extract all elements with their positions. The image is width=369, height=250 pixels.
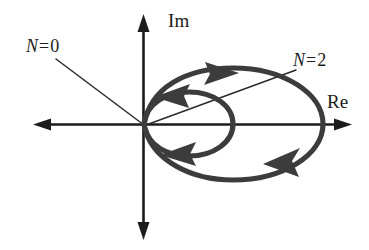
real-axis-arrow-left	[33, 119, 51, 131]
n2-symbol: N	[293, 50, 305, 70]
n2-value: 2	[317, 50, 326, 70]
n0-value: 0	[50, 36, 59, 56]
imaginary-axis-arrow-down	[138, 222, 150, 240]
imaginary-axis-label: Im	[168, 11, 190, 30]
axes-group	[33, 14, 352, 240]
real-axis-arrow-right	[334, 119, 352, 131]
real-axis	[33, 119, 352, 131]
encirclement-count-label-n0: N=0	[26, 37, 59, 55]
locus-group	[144, 62, 323, 180]
n2-equals: =	[306, 50, 316, 70]
encirclement-count-label-n2: N=2	[293, 51, 326, 69]
n0-leader-line	[56, 59, 144, 125]
real-axis-label: Re	[327, 92, 349, 111]
nyquist-diagram: Im Re N=0 N=2	[0, 0, 369, 250]
locus-arrow-inner-top	[154, 84, 190, 108]
imaginary-axis-arrow-up	[138, 14, 150, 32]
n0-symbol: N	[26, 36, 38, 56]
n0-equals: =	[39, 36, 49, 56]
